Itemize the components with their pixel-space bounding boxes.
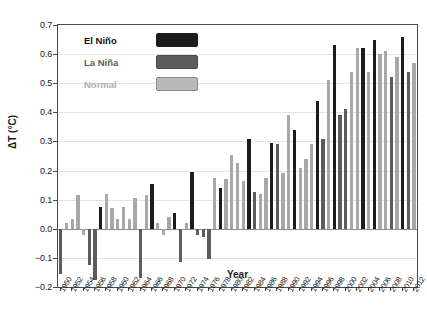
y-tick-label: 0.7 <box>40 20 52 30</box>
legend-label-lanina: La Niña <box>84 57 156 68</box>
legend-swatch-lanina <box>156 55 198 69</box>
y-tick-label: 0.6 <box>40 49 52 59</box>
bar-1955 <box>88 229 91 265</box>
y-axis-title: ΔT (°C) <box>7 115 18 149</box>
bar-1965 <box>145 195 148 228</box>
bar-1963 <box>133 198 136 229</box>
bar-2002 <box>356 48 359 228</box>
bar-1989 <box>281 173 284 228</box>
bar-1984 <box>253 192 256 228</box>
y-tick-label: 0.0 <box>40 224 52 234</box>
bar-1971 <box>179 229 182 262</box>
bar-1962 <box>128 219 131 229</box>
bar-1991 <box>293 130 296 229</box>
bar-2012 <box>412 63 415 229</box>
bar-1960 <box>116 219 119 229</box>
y-tick-label: 0.3 <box>40 136 52 146</box>
bar-1968 <box>162 229 165 235</box>
y-tick-label: 0.1 <box>40 195 52 205</box>
bar-1996 <box>321 139 324 229</box>
bar-1953 <box>76 195 79 228</box>
bar-1957 <box>99 207 102 229</box>
bar-1985 <box>259 194 262 229</box>
legend-label-elnino: El Niño <box>84 35 156 46</box>
legend: El NiñoLa NiñaNormal <box>84 29 198 95</box>
bar-1976 <box>207 229 210 260</box>
bar-1958 <box>105 194 108 229</box>
bar-1969 <box>167 217 170 229</box>
bar-1988 <box>276 144 279 228</box>
bar-2010 <box>401 37 404 229</box>
bar-2009 <box>395 57 398 229</box>
bar-1950 <box>59 229 62 274</box>
y-tick-label: 0.5 <box>40 78 52 88</box>
legend-swatch-normal <box>156 77 198 91</box>
bar-2005 <box>373 40 376 229</box>
bar-1951 <box>65 223 68 229</box>
bar-1972 <box>185 223 188 229</box>
bar-1997 <box>327 80 330 228</box>
bar-2001 <box>350 72 353 229</box>
bar-2011 <box>407 72 410 229</box>
bar-1995 <box>316 101 319 229</box>
bar-2004 <box>367 72 370 229</box>
bar-2000 <box>344 109 347 228</box>
bar-1970 <box>173 213 176 229</box>
bar-1986 <box>264 178 267 229</box>
y-axis: 0.70.60.50.40.30.20.10.0−0.1−0.2 <box>0 24 57 288</box>
bar-1977 <box>213 178 216 229</box>
bar-1987 <box>270 143 273 229</box>
bar-2008 <box>390 77 393 228</box>
bar-2006 <box>378 54 381 229</box>
bar-1975 <box>202 229 205 238</box>
bar-1998 <box>333 45 336 228</box>
legend-label-normal: Normal <box>84 79 156 90</box>
legend-item-normal: Normal <box>84 73 198 95</box>
bar-1966 <box>150 184 153 229</box>
temperature-anomaly-chart: 0.70.60.50.40.30.20.10.0−0.1−0.2 ΔT (°C)… <box>0 0 427 321</box>
y-tick-label: 0.4 <box>40 107 52 117</box>
bar-2007 <box>384 51 387 229</box>
legend-item-lanina: La Niña <box>84 51 198 73</box>
bar-1959 <box>110 208 113 228</box>
bar-2003 <box>361 48 364 228</box>
bar-1961 <box>122 207 125 229</box>
legend-swatch-elnino <box>156 33 198 47</box>
bar-1978 <box>219 188 222 229</box>
legend-item-elnino: El Niño <box>84 29 198 51</box>
bar-1999 <box>338 115 341 229</box>
bar-1954 <box>82 229 85 235</box>
bar-1994 <box>310 144 313 228</box>
bar-1967 <box>156 223 159 229</box>
bar-1990 <box>287 115 290 229</box>
x-axis-title: Year <box>57 269 418 280</box>
bar-1983 <box>247 139 250 229</box>
bar-1982 <box>242 181 245 229</box>
y-tick-label: −0.2 <box>35 282 52 292</box>
bar-1974 <box>196 229 199 235</box>
bar-1992 <box>299 168 302 229</box>
bar-1981 <box>236 163 239 229</box>
bar-1980 <box>230 155 233 229</box>
y-tick-label: 0.2 <box>40 166 52 176</box>
bar-1952 <box>71 219 74 229</box>
y-tick-label: −0.1 <box>35 253 52 263</box>
bar-1993 <box>304 159 307 229</box>
x-axis: 1950195219541956195819601962196419661968… <box>57 288 418 321</box>
bar-1973 <box>190 172 193 229</box>
bar-1979 <box>224 179 227 228</box>
